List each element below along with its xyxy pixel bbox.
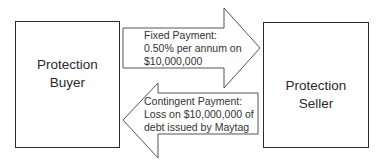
- protection-buyer-label: Protection Buyer: [37, 56, 98, 92]
- contingent-payment-label: Contingent Payment: Loss on $10,000,000 …: [144, 95, 254, 134]
- protection-buyer-box: Protection Buyer: [15, 21, 120, 148]
- fixed-payment-label: Fixed Payment: 0.50% per annum on $10,00…: [144, 29, 241, 68]
- protection-seller-label: Protection Seller: [286, 77, 347, 113]
- protection-seller-box: Protection Seller: [263, 22, 369, 148]
